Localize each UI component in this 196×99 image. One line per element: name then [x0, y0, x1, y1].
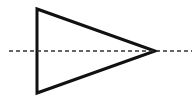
diagram-canvas — [0, 0, 196, 99]
